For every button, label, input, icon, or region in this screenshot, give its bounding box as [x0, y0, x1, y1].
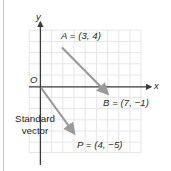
point-label-a: A = (3, 4) — [61, 31, 101, 41]
point-label-b: B = (7, −1) — [103, 98, 149, 108]
y-axis-label: y — [36, 12, 41, 22]
standard-vector-caption-line1: Standard — [4, 113, 66, 125]
origin-label: O — [30, 75, 37, 85]
standard-vector-caption: Standard vector — [4, 113, 66, 136]
point-label-p: P = (4, −5) — [77, 140, 123, 150]
standard-vector-caption-line2: vector — [4, 125, 66, 137]
x-axis-label: x — [154, 81, 159, 91]
vector-diagram-figure: A = (3, 4) B = (7, −1) P = (4, −5) O x y… — [0, 0, 171, 171]
